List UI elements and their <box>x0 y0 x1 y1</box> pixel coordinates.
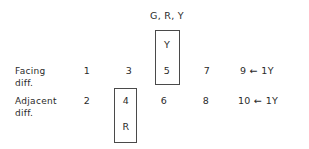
facing-value: 1 <box>84 66 90 76</box>
colors-label: G, R, Y <box>150 11 184 21</box>
adjacent-label-diff: diff. <box>15 108 33 118</box>
adjacent-value: 2 <box>84 96 90 106</box>
facing-label-diff: diff. <box>15 78 33 88</box>
facing-box-top-label: Y <box>164 40 170 50</box>
adjacent-value: 4 <box>123 96 129 106</box>
adjacent-value: 6 <box>161 96 167 106</box>
adjacent-label: Adjacent <box>15 96 57 106</box>
facing-note: 1Y <box>261 65 273 76</box>
facing-value: 7 <box>204 66 210 76</box>
facing-value: 5 <box>164 66 170 76</box>
adjacent-box-bottom-label: R <box>123 122 130 132</box>
adjacent-value: 10 <box>238 95 251 106</box>
adjacent-value-last: 10 ← 1Y <box>238 96 278 106</box>
adjacent-note: 1Y <box>266 95 278 106</box>
facing-value-last: 9 ← 1Y <box>240 66 274 76</box>
adjacent-value: 8 <box>203 96 209 106</box>
left-arrow-icon: ← <box>250 65 258 76</box>
facing-label: Facing <box>15 66 46 76</box>
left-arrow-icon: ← <box>254 95 262 106</box>
facing-value: 9 <box>240 65 246 76</box>
facing-value: 3 <box>126 66 132 76</box>
